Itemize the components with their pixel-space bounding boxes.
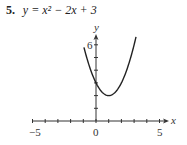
axes bbox=[33, 34, 170, 124]
x-tick-label-min: −5 bbox=[29, 126, 41, 138]
x-tick-label-zero: 0 bbox=[93, 126, 99, 138]
parabola-graph: −5 0 5 6 x y bbox=[0, 0, 187, 145]
x-tick-label-max: 5 bbox=[157, 126, 163, 138]
y-axis-label: y bbox=[93, 21, 99, 33]
y-tick-label-six: 6 bbox=[87, 39, 93, 51]
x-axis-label: x bbox=[170, 114, 176, 126]
